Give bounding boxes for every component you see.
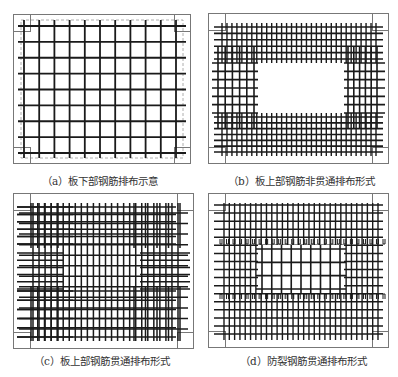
rebar-layout <box>17 203 190 341</box>
rebar-grid <box>18 20 186 158</box>
panel-a-bottom-rebar-layout <box>13 14 191 164</box>
column-corner <box>14 194 31 211</box>
column-corner <box>14 148 31 165</box>
slab-outline <box>14 194 195 350</box>
column-corner <box>373 14 390 31</box>
column-corner <box>373 194 390 211</box>
column-corner <box>14 333 31 350</box>
caption-a: （a）板下部钢筋排布示意 <box>42 173 158 188</box>
caption-d: （d）防裂钢筋贯通排布形式 <box>240 353 367 368</box>
column-corner <box>209 148 226 165</box>
column-corner <box>14 15 31 32</box>
cropped-previous-text <box>0 0 398 6</box>
caption-c: （c）板上部钢筋贯通排布形式 <box>34 353 170 368</box>
caption-b: （b）板上部钢筋非贯通排布形式 <box>228 173 375 188</box>
panel-d-anti-crack-rebar-through <box>208 193 389 348</box>
column-corner <box>373 148 390 165</box>
panel-b-top-rebar-non-through <box>208 13 389 164</box>
panel-c-top-rebar-through <box>13 193 194 349</box>
column-corner <box>209 14 226 31</box>
no-rebar-zone <box>258 65 344 111</box>
column-corner <box>209 194 226 211</box>
